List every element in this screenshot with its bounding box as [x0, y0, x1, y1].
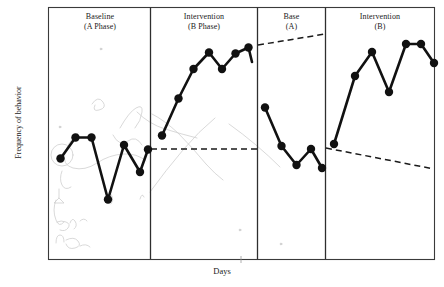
phase-dividers — [151, 8, 326, 260]
phase-header-intervention-b2-line1: Intervention — [360, 12, 400, 21]
phase-header-baseline-a-line1: Baseline — [86, 12, 114, 21]
trend-line-base-a — [258, 34, 325, 45]
series-base-a2 — [261, 103, 326, 172]
phase-header-base-a2: Base (A) — [260, 12, 323, 32]
phase-header-base-a2-line1: Base — [284, 12, 300, 21]
trend-line-intervention-b — [326, 148, 434, 169]
x-axis-rule — [49, 256, 435, 263]
phase-header-intervention-b-line2: (B Phase) — [153, 22, 255, 32]
series-intervention-b — [158, 43, 253, 139]
plot-canvas — [0, 0, 444, 287]
phase-header-baseline-a: Baseline (A Phase) — [53, 12, 147, 32]
phase-header-baseline-a-line2: (A Phase) — [53, 22, 147, 32]
series-baseline-a — [56, 133, 152, 203]
phase-header-intervention-b-line1: Intervention — [184, 12, 224, 21]
phase-header-base-a2-line2: (A) — [260, 22, 323, 32]
x-axis-label: Days — [0, 266, 444, 276]
single-case-design-figure: Baseline (A Phase) Intervention (B Phase… — [0, 0, 444, 287]
y-axis-label: Frequency of behavior — [14, 63, 23, 183]
phase-header-intervention-b2: Intervention (B) — [328, 12, 432, 32]
series-intervention-b2 — [330, 40, 438, 148]
phase-header-intervention-b2-line2: (B) — [328, 22, 432, 32]
trend-lines — [151, 34, 434, 169]
phase-header-intervention-b: Intervention (B Phase) — [153, 12, 255, 32]
